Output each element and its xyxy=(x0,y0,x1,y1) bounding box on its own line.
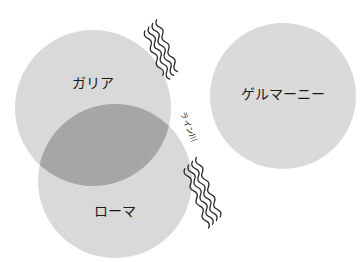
roma-label: ローマ xyxy=(94,203,136,219)
gallia-label: ガリア xyxy=(72,75,114,91)
river-label: ライン川 xyxy=(178,110,198,143)
venn-diagram: ガリア ローマ ゲルマーニー ライン川 xyxy=(0,0,361,262)
germania-label: ゲルマーニー xyxy=(241,86,325,102)
